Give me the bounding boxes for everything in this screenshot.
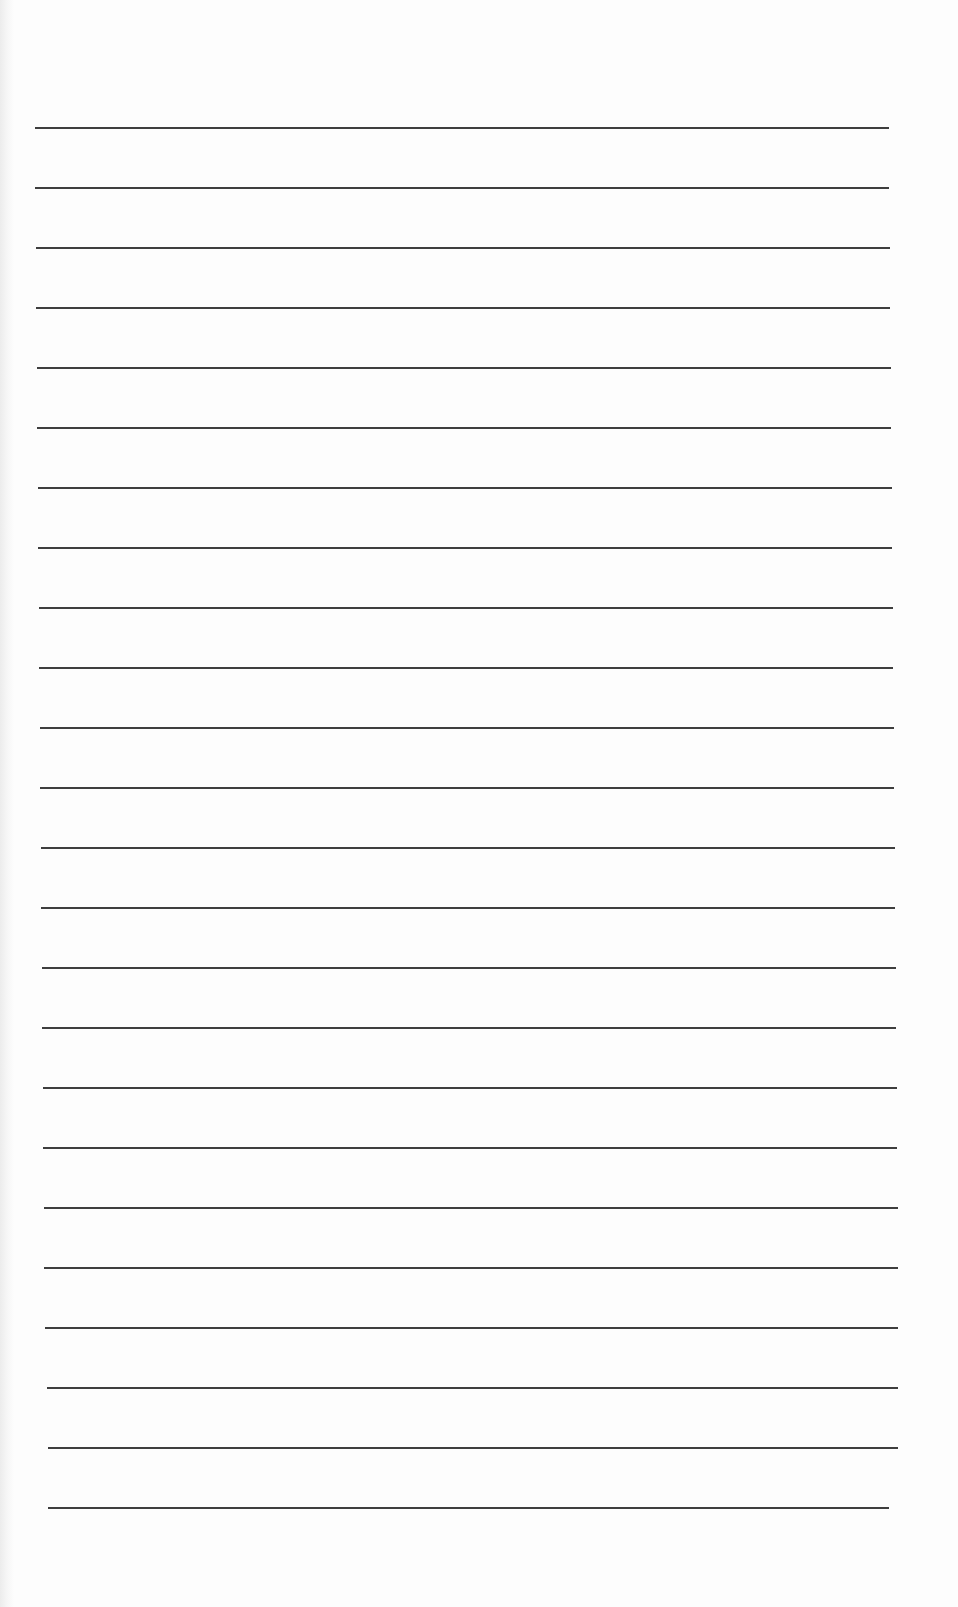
ruled-line (38, 547, 892, 549)
ruled-line (43, 1147, 897, 1149)
ruled-line (41, 847, 895, 849)
ruled-line (41, 907, 895, 909)
ruled-line (36, 247, 890, 249)
ruled-line (44, 1207, 898, 1209)
ruled-line (44, 1267, 898, 1269)
ruled-line (38, 487, 892, 489)
ruled-line (42, 967, 896, 969)
ruled-line (39, 607, 893, 609)
ruled-line (42, 1027, 896, 1029)
ruled-line (37, 427, 891, 429)
ruled-line (48, 1447, 898, 1449)
ruled-line (35, 127, 889, 129)
ruled-line (43, 1087, 897, 1089)
ruled-line (47, 1387, 898, 1389)
ruled-line (45, 1327, 898, 1329)
ruled-line (40, 727, 894, 729)
lined-paper-page (0, 0, 958, 1607)
page-edge-shadow (0, 0, 14, 1607)
ruled-line (48, 1507, 889, 1509)
ruled-line (35, 187, 889, 189)
ruled-line (37, 367, 891, 369)
ruled-line (40, 787, 894, 789)
ruled-line (36, 307, 890, 309)
ruled-line (39, 667, 893, 669)
